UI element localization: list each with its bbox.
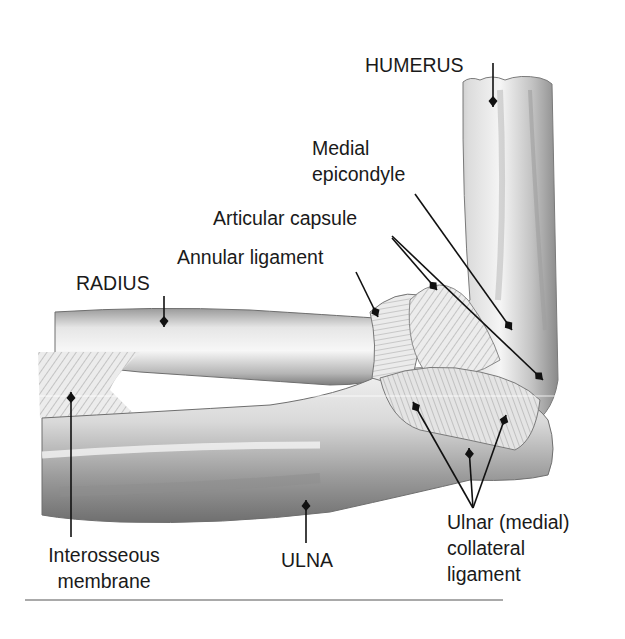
label-text: Interosseousmembrane bbox=[48, 544, 160, 592]
label-text: Articular capsule bbox=[213, 207, 357, 229]
label-text: ULNA bbox=[281, 549, 333, 571]
label-text: Annular ligament bbox=[177, 246, 324, 268]
interosseous-membrane bbox=[38, 352, 140, 418]
label-text: Ulnar (medial)collateralligament bbox=[447, 511, 569, 585]
arrowhead-icon bbox=[535, 372, 543, 380]
elbow-anatomy-diagram: HUMERUSMedialepicondyleArticular capsule… bbox=[0, 0, 625, 639]
label-text: Medialepicondyle bbox=[312, 137, 405, 185]
label-annular-ligament: Annular ligament bbox=[177, 246, 379, 317]
label-text: HUMERUS bbox=[365, 54, 464, 76]
label-text: RADIUS bbox=[76, 272, 150, 294]
